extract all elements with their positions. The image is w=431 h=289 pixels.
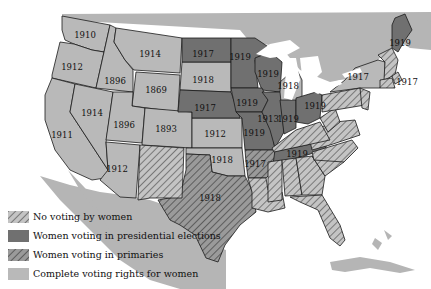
label-oregon: 1912 (61, 62, 83, 72)
label-colorado: 1893 (155, 124, 177, 134)
legend-label: Women voting in presidential elections (33, 230, 221, 241)
state-connecticut (380, 78, 395, 88)
label-missouri: 1919 (243, 128, 265, 138)
label-wisconsin: 1919 (257, 69, 279, 79)
label-nebraska: 1917 (194, 103, 216, 113)
state-mississippi (268, 160, 282, 202)
label-new-york: 1917 (347, 72, 369, 82)
map-legend: No voting by women Women voting in presi… (8, 207, 221, 283)
label-texas: 1918 (199, 193, 221, 203)
label-north-dakota: 1917 (192, 49, 214, 59)
state-pennsylvania (322, 88, 365, 112)
label-south-dakota: 1918 (192, 75, 214, 85)
state-new-mexico (138, 145, 184, 200)
state-new-jersey (360, 88, 370, 110)
label-idaho: 1896 (104, 76, 126, 86)
label-indiana: 1919 (277, 114, 299, 124)
legend-item-primaries: Women voting in primaries (8, 245, 221, 264)
cuba-shape (330, 257, 415, 273)
label-arizona: 1912 (106, 164, 128, 174)
label-michigan: 1918 (277, 81, 299, 91)
legend-item-presidential: Women voting in presidential elections (8, 226, 221, 245)
hatch-dark-swatch-icon (8, 249, 29, 261)
label-rhode-island: 1917 (396, 77, 418, 87)
label-montana: 1914 (139, 49, 161, 59)
label-iowa: 1919 (236, 98, 258, 108)
label-washington: 1910 (74, 30, 96, 40)
label-tennessee: 1919 (286, 149, 308, 159)
legend-label: No voting by women (33, 211, 132, 222)
label-kansas: 1912 (204, 129, 226, 139)
dark-swatch-icon (8, 230, 29, 242)
label-oklahoma: 1918 (211, 155, 233, 165)
legend-item-none: No voting by women (8, 207, 221, 226)
label-illinois: 1913 (257, 114, 279, 124)
label-arkansas: 1917 (244, 159, 266, 169)
label-wyoming: 1869 (145, 85, 167, 95)
label-ohio: 1919 (304, 101, 326, 111)
label-california: 1911 (51, 130, 73, 140)
label-utah: 1896 (113, 120, 135, 130)
light-swatch-icon (8, 268, 29, 280)
hatch-light-swatch-icon (8, 211, 29, 223)
label-nevada: 1914 (81, 108, 103, 118)
label-minnesota: 1919 (229, 52, 251, 62)
state-florida (290, 195, 345, 246)
legend-item-complete: Complete voting rights for women (8, 264, 221, 283)
legend-label: Complete voting rights for women (33, 268, 198, 279)
legend-label: Women voting in primaries (33, 249, 163, 260)
label-maine: 1919 (389, 38, 411, 48)
